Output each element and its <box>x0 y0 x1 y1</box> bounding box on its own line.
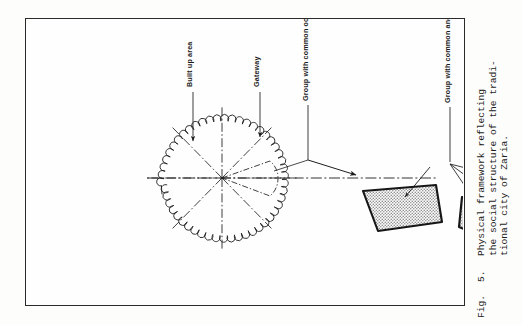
label-group-common-occupation: Group with common occupation <box>302 18 310 101</box>
label-group-common-ancestor: Group with common ancestor <box>444 18 452 103</box>
ward-shape-lower-left <box>459 187 463 239</box>
compound-cluster <box>450 107 463 265</box>
caption-text: Physical framework reflecting the social… <box>476 60 511 256</box>
figure-page: Built up area Gateway Group with common … <box>0 0 522 325</box>
highlighted-sector-wedge <box>222 161 278 196</box>
caption-number: 5. <box>476 270 488 282</box>
wedge-leader-line <box>274 160 308 171</box>
figure-frame: Built up area Gateway Group with common … <box>25 18 465 306</box>
arrow-occupation-to-middle <box>308 160 356 175</box>
quarter-block-shape <box>363 167 442 231</box>
caption-prefix: Fig. <box>476 295 488 318</box>
label-gateway: Gateway <box>253 56 261 87</box>
label-built-up-area: Built up area <box>186 42 194 87</box>
figure-drawing <box>26 19 463 304</box>
